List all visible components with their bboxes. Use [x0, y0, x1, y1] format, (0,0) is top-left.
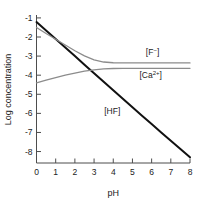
x-tick-label: 3: [92, 167, 97, 177]
curve-annotations: [F−][Ca2+][HF]: [104, 47, 162, 116]
y-tick-label: -1: [25, 13, 33, 23]
curve-label: [F−]: [146, 47, 159, 57]
y-tick-label: -5: [25, 89, 33, 99]
y-tick-label: -8: [25, 147, 33, 157]
curve-ca2: [37, 68, 191, 83]
y-tick-label: -2: [25, 32, 33, 42]
speciation-diagram: -1-2-3-4-5-6-7-8 012345678 [F−][Ca2+][HF…: [0, 0, 208, 206]
curve-label: [HF]: [104, 106, 120, 116]
x-tick-label: 5: [130, 167, 135, 177]
x-tick-label: 8: [188, 167, 193, 177]
y-tick-label: -7: [25, 127, 33, 137]
y-tick-label: -6: [25, 108, 33, 118]
curve-f: [37, 27, 191, 63]
x-tick-label: 2: [73, 167, 78, 177]
x-tick-label: 4: [111, 167, 116, 177]
x-axis-title: pH: [107, 188, 119, 198]
y-tick-label: -4: [25, 70, 33, 80]
x-tick-label: 0: [34, 167, 39, 177]
y-axis-title: Log concentration: [3, 54, 13, 126]
x-tick-label: 1: [53, 167, 58, 177]
y-axis-ticks: -1-2-3-4-5-6-7-8: [25, 13, 41, 157]
x-axis-ticks: 012345678: [34, 159, 193, 178]
curve-hf: [37, 22, 191, 157]
x-tick-label: 6: [149, 167, 154, 177]
x-tick-label: 7: [168, 167, 173, 177]
curve-label: [Ca2+]: [139, 70, 161, 80]
y-tick-label: -3: [25, 51, 33, 61]
data-curves: [37, 22, 191, 157]
chart-figure: -1-2-3-4-5-6-7-8 012345678 [F−][Ca2+][HF…: [0, 0, 208, 206]
